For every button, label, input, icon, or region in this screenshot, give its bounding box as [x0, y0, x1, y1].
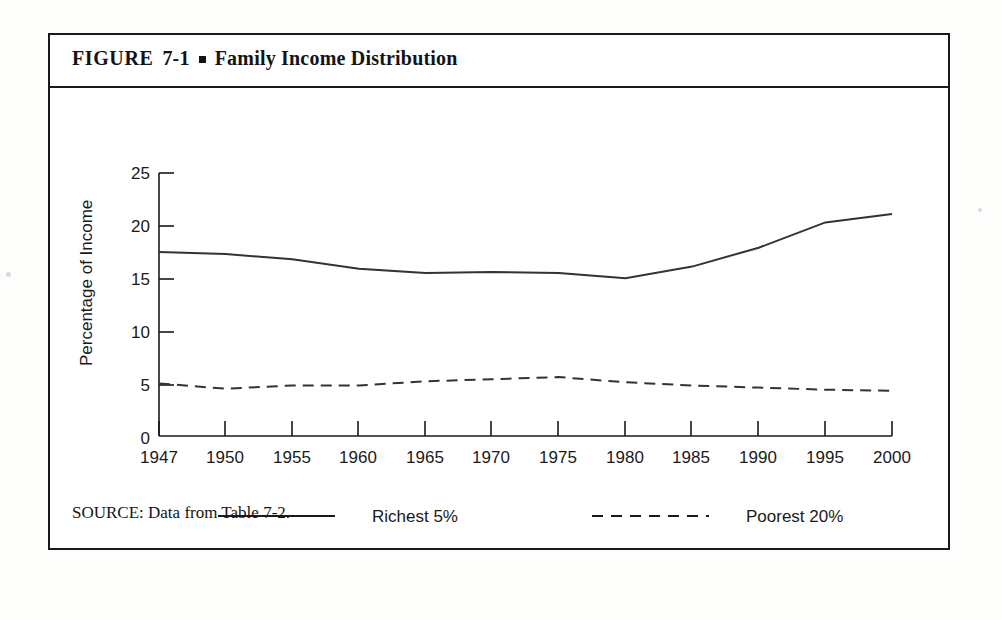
series-line-poorest-20: [159, 377, 892, 391]
y-axis-tick-labels: 25 20 15 10 5 0: [131, 164, 150, 448]
x-tick-label: 1980: [606, 448, 644, 467]
y-tick-label: 25: [131, 164, 150, 183]
source-note: SOURCE: Data from Table 7-2.: [72, 503, 290, 523]
line-chart-svg: Percentage of Income 25 20 15 10 5 0: [50, 88, 948, 548]
y-axis-ticks: [159, 173, 174, 385]
x-tick-label: 2000: [873, 448, 911, 467]
x-tick-label: 1975: [539, 448, 577, 467]
square-bullet-icon: [199, 56, 206, 63]
y-axis-title: Percentage of Income: [77, 200, 96, 366]
x-tick-label: 1990: [739, 448, 777, 467]
scan-speck: [978, 208, 982, 212]
figure-title-text: Family Income Distribution: [215, 47, 458, 69]
x-tick-label: 1970: [472, 448, 510, 467]
x-axis-ticks: [159, 421, 892, 436]
chart-plot-area: Percentage of Income 25 20 15 10 5 0: [50, 88, 948, 548]
x-tick-label: 1985: [672, 448, 710, 467]
page-background: FIGURE7-1Family Income Distribution Perc…: [0, 0, 1002, 620]
y-tick-label: 20: [131, 217, 150, 236]
figure-title-bar: FIGURE7-1Family Income Distribution: [50, 35, 948, 88]
legend-label-richest: Richest 5%: [372, 507, 458, 526]
chart-legend: Richest 5% Poorest 20%: [218, 507, 843, 526]
y-tick-label: 10: [131, 323, 150, 342]
figure-number: 7-1: [162, 47, 189, 69]
scan-speck: [6, 272, 11, 277]
y-tick-label: 5: [141, 376, 150, 395]
x-axis-tick-labels: 1947 1950 1955 1960 1965 1970 1975 1980 …: [140, 448, 911, 467]
x-tick-label: 1965: [406, 448, 444, 467]
y-tick-label: 0: [141, 429, 150, 448]
x-tick-label: 1955: [273, 448, 311, 467]
y-tick-label: 15: [131, 270, 150, 289]
page-title: FIGURE7-1Family Income Distribution: [72, 47, 458, 70]
series-line-richest-5: [159, 214, 892, 278]
legend-label-poorest: Poorest 20%: [746, 507, 843, 526]
x-tick-label: 1947: [140, 448, 178, 467]
x-tick-label: 1960: [339, 448, 377, 467]
x-tick-label: 1995: [806, 448, 844, 467]
figure-box: FIGURE7-1Family Income Distribution Perc…: [48, 33, 950, 550]
x-tick-label: 1950: [206, 448, 244, 467]
figure-label-word: FIGURE: [72, 47, 153, 69]
